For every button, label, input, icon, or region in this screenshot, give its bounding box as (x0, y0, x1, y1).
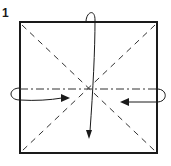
fold-diagram (0, 0, 171, 166)
right-arrow-path (128, 89, 165, 102)
arrow-right-head-icon (61, 94, 70, 102)
top-arrow-path (86, 13, 95, 131)
arrow-down-head-icon (86, 130, 92, 139)
arrow-left-head-icon (120, 98, 129, 106)
left-arrow-path (11, 88, 62, 100)
